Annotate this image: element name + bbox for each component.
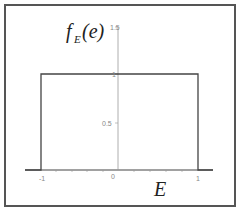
y-axis-label-sub: E <box>73 33 81 45</box>
x-tick-label: -1 <box>39 175 45 182</box>
chart-plot: -1 0 1 0.5 1 1.5 f E (e) E <box>0 0 240 208</box>
x-axis-label: E <box>153 178 166 200</box>
x-tick-label: 0 <box>111 173 115 180</box>
pdf-curve <box>25 74 213 170</box>
y-tick-label: 1.5 <box>110 24 120 31</box>
y-axis-label-main: f <box>66 20 74 43</box>
y-tick-label: 1 <box>112 71 116 78</box>
y-tick-label: 0.5 <box>102 120 112 127</box>
y-axis-label-arg: (e) <box>82 20 105 43</box>
x-tick-label: 1 <box>196 175 200 182</box>
